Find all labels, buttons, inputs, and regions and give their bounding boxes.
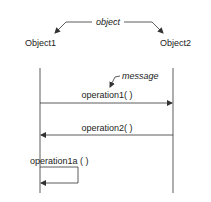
object-annotation-label: object: [96, 17, 121, 27]
self-message-arrow-operation1a: [40, 167, 78, 183]
sequence-diagram: object Object1 Object2 message operation…: [0, 0, 211, 202]
message-pointer-arrow: [110, 76, 120, 87]
object1-label: Object1: [25, 38, 56, 48]
object1-pointer-arrow: [55, 22, 92, 33]
message-annotation-label: message: [122, 71, 159, 81]
object2-label: Object2: [160, 38, 191, 48]
message-label-operation2: operation2( ): [81, 123, 132, 133]
message-label-operation1: operation1( ): [81, 90, 132, 100]
message-annotation: message: [110, 71, 159, 87]
object2-pointer-arrow: [124, 22, 163, 33]
message-label-operation1a: operation1a ( ): [30, 156, 89, 166]
object-annotation: object: [55, 17, 163, 33]
